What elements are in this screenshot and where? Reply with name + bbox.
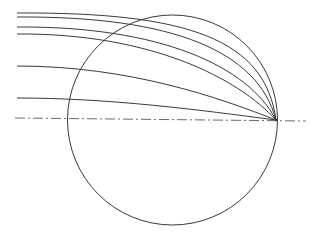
streamline-5 bbox=[17, 66, 276, 120]
streamline-group bbox=[17, 13, 277, 121]
streamline-1 bbox=[17, 13, 276, 120]
streamline-diagram bbox=[0, 0, 320, 240]
convergence-point bbox=[275, 119, 277, 121]
diagram-canvas bbox=[0, 0, 320, 240]
streamline-6 bbox=[17, 98, 276, 120]
